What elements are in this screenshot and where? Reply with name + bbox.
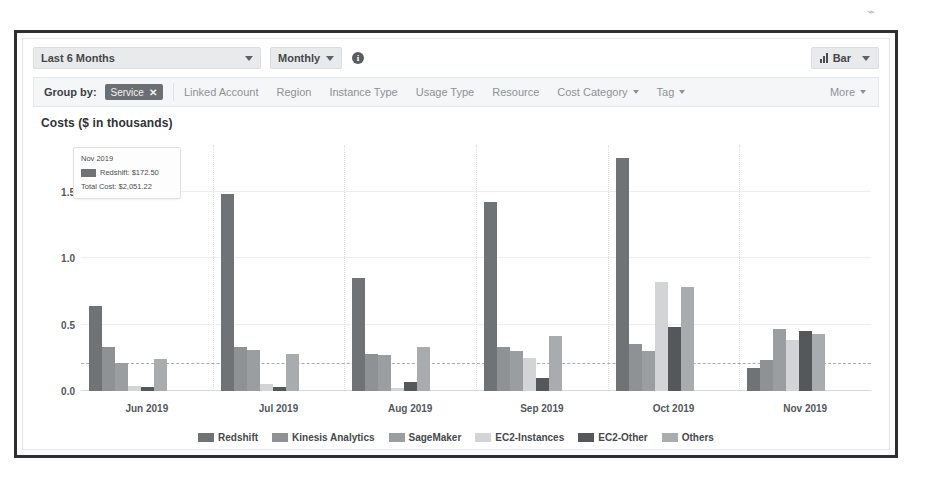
bar-set [213, 145, 345, 391]
group-by-item-label: Instance Type [329, 86, 397, 98]
group-by-item-instance-type[interactable]: Instance Type [329, 86, 397, 98]
bar-others[interactable] [812, 334, 825, 391]
bar-kinesis-analytics[interactable] [760, 360, 773, 391]
bar-ec2-other[interactable] [404, 382, 417, 391]
bar-others[interactable] [549, 336, 562, 391]
legend-label: Others [682, 432, 714, 443]
legend-item-others[interactable]: Others [662, 432, 714, 443]
bar-set [476, 145, 608, 391]
bar-sagemaker[interactable] [247, 350, 260, 391]
legend-item-ec2-other[interactable]: EC2-Other [578, 432, 647, 443]
y-axis-tick: 1.5 [37, 186, 75, 197]
bar-group: Jul 2019 [213, 145, 345, 391]
bar-sagemaker[interactable] [773, 329, 786, 391]
bar-others[interactable] [417, 347, 430, 391]
tooltip-total: Total Cost: $2,051.22 [81, 182, 173, 192]
bar-chart-icon [820, 53, 828, 63]
bar-ec2-instances[interactable] [128, 386, 141, 391]
group-by-item-usage-type[interactable]: Usage Type [416, 86, 475, 98]
bar-redshift[interactable] [352, 278, 365, 391]
legend-item-redshift[interactable]: Redshift [198, 432, 258, 443]
group-by-item-label: Tag [657, 86, 675, 98]
bar-sagemaker[interactable] [115, 363, 128, 391]
y-axis-tick: 0.0 [37, 386, 75, 397]
x-axis-tick: Nov 2019 [739, 403, 871, 414]
group-by-item-label: Cost Category [557, 86, 627, 98]
tooltip-series-label: Redshift: $172.50 [100, 168, 159, 178]
bar-ec2-other[interactable] [273, 387, 286, 391]
bar-kinesis-analytics[interactable] [365, 354, 378, 391]
x-axis-tick: Jun 2019 [81, 403, 213, 414]
chart-area: Costs ($ in thousands) 0.00.51.01.5Jun 2… [33, 107, 879, 449]
bar-kinesis-analytics[interactable] [234, 347, 247, 391]
bar-set [739, 145, 871, 391]
legend-label: Kinesis Analytics [292, 432, 374, 443]
bar-sagemaker[interactable] [510, 351, 523, 391]
bar-sagemaker[interactable] [642, 351, 655, 391]
group-by-more-label: More [830, 86, 855, 98]
legend-label: Redshift [218, 432, 258, 443]
bar-kinesis-analytics[interactable] [497, 347, 510, 391]
group-by-more[interactable]: More [830, 86, 866, 98]
granularity-select[interactable]: Monthly [270, 47, 342, 69]
bar-redshift[interactable] [221, 194, 234, 391]
legend-swatch [475, 433, 491, 442]
bar-redshift[interactable] [89, 306, 102, 391]
group-by-label: Group by: [44, 86, 97, 98]
bar-ec2-instances[interactable] [786, 340, 799, 391]
bar-group: Sep 2019 [476, 145, 608, 391]
date-range-select[interactable]: Last 6 Months [33, 47, 261, 69]
y-axis-tick: 0.5 [37, 319, 75, 330]
chart-title: Costs ($ in thousands) [41, 116, 173, 130]
bar-ec2-other[interactable] [799, 331, 812, 391]
chart-tooltip: Nov 2019 Redshift: $172.50 Total Cost: $… [73, 147, 181, 199]
bar-redshift[interactable] [616, 158, 629, 391]
bar-ec2-instances[interactable] [523, 358, 536, 391]
bar-kinesis-analytics[interactable] [102, 347, 115, 391]
legend-swatch [272, 433, 288, 442]
bar-set [344, 145, 476, 391]
legend-item-ec2-instances[interactable]: EC2-Instances [475, 432, 564, 443]
panel-inner: Last 6 Months Monthly i Bar Group by: Se… [22, 38, 890, 450]
bar-ec2-instances[interactable] [260, 384, 273, 391]
divider [173, 83, 174, 101]
scan-artifact: ⌁ [858, 4, 884, 20]
legend-item-sagemaker[interactable]: SageMaker [389, 432, 462, 443]
chevron-down-icon [326, 56, 334, 61]
chevron-down-icon [860, 90, 866, 94]
group-by-chip-service[interactable]: Service ✕ [105, 84, 163, 100]
group-by-item-cost-category[interactable]: Cost Category [557, 86, 638, 98]
legend-swatch [662, 433, 678, 442]
plot-region: 0.00.51.01.5Jun 2019Jul 2019Aug 2019Sep … [81, 145, 871, 391]
info-icon[interactable]: i [352, 52, 364, 64]
tooltip-swatch [81, 169, 96, 177]
group-by-item-resource[interactable]: Resource [492, 86, 539, 98]
bar-redshift[interactable] [484, 202, 497, 391]
chevron-down-icon [862, 56, 870, 61]
legend-swatch [578, 433, 594, 442]
bar-ec2-other[interactable] [536, 378, 549, 391]
bar-redshift[interactable] [747, 368, 760, 391]
date-range-label: Last 6 Months [41, 52, 115, 64]
legend-item-kinesis-analytics[interactable]: Kinesis Analytics [272, 432, 374, 443]
bar-ec2-instances[interactable] [391, 388, 404, 391]
bar-ec2-other[interactable] [141, 387, 154, 391]
bar-others[interactable] [681, 287, 694, 391]
close-icon[interactable]: ✕ [149, 87, 157, 98]
group-by-item-tag[interactable]: Tag [657, 86, 686, 98]
y-axis-tick: 1.0 [37, 253, 75, 264]
chart-type-button[interactable]: Bar [811, 47, 879, 69]
bar-others[interactable] [154, 359, 167, 391]
legend-label: SageMaker [409, 432, 462, 443]
bar-ec2-instances[interactable] [655, 282, 668, 391]
x-axis-tick: Sep 2019 [476, 403, 608, 414]
bar-ec2-other[interactable] [668, 327, 681, 391]
bar-sagemaker[interactable] [378, 355, 391, 391]
group-by-item-linked-account[interactable]: Linked Account [184, 86, 259, 98]
bar-others[interactable] [286, 354, 299, 391]
group-by-item-region[interactable]: Region [277, 86, 312, 98]
bar-kinesis-analytics[interactable] [629, 344, 642, 391]
bar-groups: Jun 2019Jul 2019Aug 2019Sep 2019Oct 2019… [81, 145, 871, 391]
granularity-label: Monthly [278, 52, 320, 64]
legend-label: EC2-Other [598, 432, 647, 443]
